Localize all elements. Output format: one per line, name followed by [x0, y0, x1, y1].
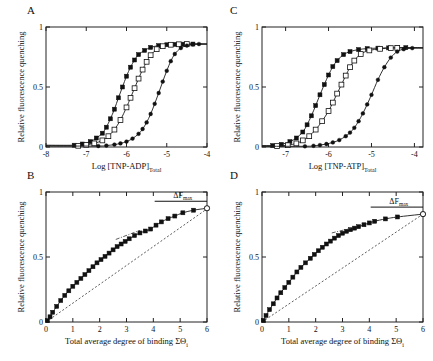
y-tick-label-C-1: 0.5 [249, 83, 259, 92]
data-point [388, 46, 393, 51]
data-point [79, 276, 83, 280]
x-axis-title-C: Log [TNP-ATP]Total [309, 161, 377, 173]
data-point [75, 280, 79, 284]
data-point [348, 65, 353, 70]
data-point [335, 59, 339, 63]
data-point [133, 58, 137, 62]
x-tick-label-D-1: 1 [287, 325, 291, 334]
data-point [179, 46, 183, 50]
x-tick-label-A-4: -4 [204, 150, 211, 159]
data-point [367, 48, 372, 53]
data-point [294, 136, 298, 140]
fit-curve-C-filled-squares [262, 48, 423, 146]
data-point [370, 93, 374, 97]
y-tick-label-A-0: 0 [39, 143, 43, 152]
panel-D: 012345600.51ΔFmaxDRelative fluorescence … [230, 169, 426, 348]
data-point [291, 275, 295, 279]
data-point [143, 48, 147, 52]
x-tick-label-B-4: 4 [151, 325, 155, 334]
fit-curve-C-filled-circles [262, 48, 423, 146]
data-point [312, 252, 316, 256]
data-point [143, 229, 147, 233]
data-point [299, 265, 303, 269]
data-point [303, 144, 307, 148]
data-point [331, 141, 335, 145]
data-point [352, 58, 357, 63]
data-point [326, 109, 331, 114]
plot-frame-D [262, 192, 423, 322]
y-axis-title-B: Relative fluorescence quenching [16, 201, 26, 313]
data-point [285, 143, 290, 148]
data-point [125, 74, 129, 78]
fit-curve-A-open-squares [46, 44, 207, 146]
data-point [127, 237, 131, 241]
data-point [325, 142, 329, 146]
data-point [305, 123, 309, 127]
data-point [309, 114, 313, 118]
data-point [295, 270, 299, 274]
multi-panel-figure: -8-7-6-5-400.51ARelative fluorescence qu… [0, 0, 433, 361]
data-point [357, 119, 361, 123]
data-point [132, 86, 137, 91]
y-tick-label-B-0: 0 [39, 318, 43, 327]
data-point [378, 46, 383, 51]
data-point [113, 143, 117, 147]
data-point [160, 44, 165, 49]
data-point [125, 140, 129, 144]
data-point [157, 91, 161, 95]
data-point [154, 47, 159, 52]
x-axis-title-subscript-B: i [186, 342, 188, 348]
x-tick-label-C-0: -7 [282, 150, 289, 159]
data-point [159, 220, 163, 224]
fit-curve-B-filled-squares [47, 208, 207, 320]
data-point [339, 82, 344, 87]
data-point [153, 102, 157, 106]
data-point [396, 215, 400, 219]
data-point [104, 144, 108, 148]
data-point [383, 217, 387, 221]
data-point [112, 107, 116, 111]
y-tick-label-A-2: 1 [39, 23, 43, 32]
data-point [136, 76, 141, 81]
y-axis-title-C: Relative fluorescence quenching [232, 31, 242, 143]
data-point [100, 131, 104, 135]
data-point [185, 44, 189, 48]
data-point [55, 304, 59, 308]
data-point [283, 286, 287, 290]
data-point [357, 225, 361, 229]
data-point [335, 91, 340, 96]
fit-curve-A-filled-squares [46, 44, 207, 145]
data-point [51, 310, 55, 314]
data-point [169, 59, 173, 63]
data-point [154, 223, 158, 227]
x-tick-label-B-6: 6 [205, 325, 209, 334]
data-point [92, 141, 97, 146]
data-point [322, 83, 326, 87]
data-point [331, 65, 335, 69]
data-point [104, 125, 108, 129]
x-axis-title-subscript-D: i [402, 342, 404, 348]
data-point [341, 231, 345, 235]
data-point [312, 144, 316, 148]
data-point [129, 65, 133, 69]
data-point [112, 127, 117, 132]
data-point [103, 254, 107, 258]
data-point [328, 239, 332, 243]
data-point [358, 52, 363, 57]
data-point [300, 138, 305, 143]
data-point [137, 53, 141, 57]
data-point [63, 293, 67, 297]
delta-f-max-label-D: ΔFmax [389, 197, 408, 207]
data-point [173, 214, 177, 218]
data-point [192, 208, 196, 212]
data-point [303, 261, 307, 265]
data-point [107, 251, 111, 255]
y-tick-label-D-1: 0.5 [249, 253, 259, 262]
data-point [140, 67, 145, 72]
data-point [59, 299, 63, 303]
x-tick-label-A-2: -6 [123, 150, 130, 159]
data-point [313, 127, 318, 132]
data-point [342, 53, 346, 57]
x-tick-label-B-5: 5 [178, 325, 182, 334]
data-point [324, 242, 328, 246]
